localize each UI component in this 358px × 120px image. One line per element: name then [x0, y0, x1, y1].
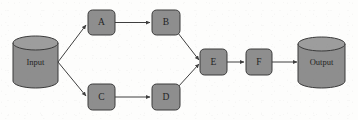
node-a[interactable]: A	[88, 10, 115, 35]
edge-input-to-c	[58, 62, 86, 96]
flowchart-diagram: Input A B C D E F	[0, 0, 358, 120]
input-cylinder-top	[13, 36, 58, 50]
edge-b-to-e	[178, 33, 199, 60]
node-input[interactable]: Input	[13, 36, 58, 88]
input-label: Input	[27, 57, 46, 67]
node-e[interactable]: E	[200, 49, 227, 75]
edge-input-to-a	[58, 25, 86, 62]
f-label: F	[256, 57, 261, 67]
node-output[interactable]: Output	[298, 37, 345, 88]
a-label: A	[98, 17, 105, 27]
flowchart-canvas: Input A B C D E F	[0, 0, 358, 120]
c-label: C	[98, 92, 104, 102]
output-cylinder-top	[298, 37, 345, 51]
edge-d-to-e	[178, 64, 199, 87]
node-d[interactable]: D	[152, 84, 180, 110]
node-c[interactable]: C	[88, 84, 115, 110]
node-f[interactable]: F	[246, 49, 272, 75]
b-label: B	[163, 17, 169, 27]
node-b[interactable]: B	[152, 10, 180, 35]
output-label: Output	[310, 57, 334, 67]
e-label: E	[211, 57, 217, 67]
d-label: D	[163, 92, 170, 102]
